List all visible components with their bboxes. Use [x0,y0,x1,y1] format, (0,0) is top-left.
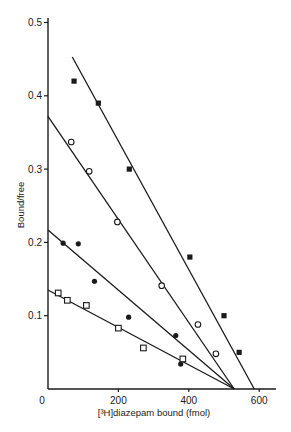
data-point-square-open [116,325,122,331]
x-tick-label: 400 [180,395,197,406]
data-point-circle-open [213,351,219,357]
axes [48,18,276,389]
data-point-square-filled [237,350,242,355]
data-point-square-open [84,303,90,309]
data-point-circle-filled [76,241,81,246]
y-tick-label: 0.5 [28,17,42,28]
fit-line-square-filled [72,57,254,389]
data-point-square-open [141,345,147,351]
data-point-circle-open [159,283,165,289]
data-point-square-filled [187,254,192,259]
data-point-circle-open [68,139,74,145]
data-point-circle-open [86,168,92,174]
data-point-square-filled [127,167,132,172]
y-tick-label: 0.4 [28,90,42,101]
x-ticks: 0200400600 [39,389,268,406]
data-point-circle-filled [126,315,131,320]
y-axis-label: Bound/free [15,182,26,228]
data-point-circle-filled [173,333,178,338]
data-point-square-open [180,356,186,362]
x-tick-label: 0 [39,395,45,406]
x-axis-label: [³H]diazepam bound (fmol) [98,407,210,418]
data-point-square-filled [221,313,226,318]
scatchard-plot: 0.10.20.30.40.5 0200400600 Bound/free [³… [0,0,291,432]
fit-lines [48,57,254,389]
x-tick-label: 200 [110,395,127,406]
y-tick-label: 0.1 [28,310,42,321]
y-tick-label: 0.2 [28,237,42,248]
data-point-circle-filled [61,241,66,246]
data-point-circle-filled [92,279,97,284]
data-point-square-open [65,298,71,304]
data-point-square-filled [96,101,101,106]
fit-line-square-open [48,290,234,389]
data-points [55,79,241,367]
data-point-circle-open [195,322,201,328]
y-tick-label: 0.3 [28,164,42,175]
data-point-square-filled [71,79,76,84]
y-ticks: 0.10.20.30.40.5 [28,17,48,321]
data-point-square-open [55,290,61,296]
data-point-circle-open [115,219,121,225]
x-tick-label: 600 [251,395,268,406]
